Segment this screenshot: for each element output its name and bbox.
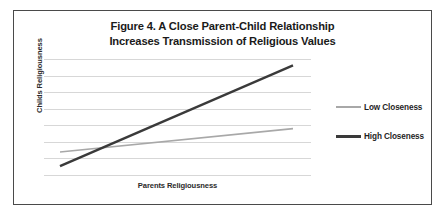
high-closeness-line-swatch-icon bbox=[336, 135, 361, 138]
legend-item-low-closeness: Low Closeness bbox=[336, 99, 436, 115]
chart-title-line-2: Increases Transmission of Religious Valu… bbox=[14, 34, 431, 49]
figure-number: Figure 4. bbox=[111, 20, 156, 32]
y-axis-label: Childs Religiousness bbox=[35, 0, 44, 113]
plot-area bbox=[44, 59, 311, 176]
legend-label-low-closeness: Low Closeness bbox=[364, 103, 422, 112]
chart-title-line-1: Figure 4. A Close Parent-Child Relations… bbox=[14, 19, 431, 34]
low-closeness-line-swatch-icon bbox=[336, 106, 361, 108]
series-plot bbox=[44, 59, 311, 176]
chart-legend: Low Closeness High Closeness bbox=[336, 99, 436, 157]
figure-frame: Figure 4. A Close Parent-Child Relations… bbox=[13, 10, 432, 205]
chart-title: Figure 4. A Close Parent-Child Relations… bbox=[14, 19, 431, 48]
high-closeness-line bbox=[60, 65, 293, 166]
legend-item-high-closeness: High Closeness bbox=[336, 128, 436, 144]
x-axis-label: Parents Religiousness bbox=[44, 181, 311, 190]
low-closeness-line bbox=[60, 129, 293, 152]
legend-label-high-closeness: High Closeness bbox=[364, 132, 424, 141]
chart-title-line-1-text: A Close Parent-Child Relationship bbox=[156, 20, 335, 32]
